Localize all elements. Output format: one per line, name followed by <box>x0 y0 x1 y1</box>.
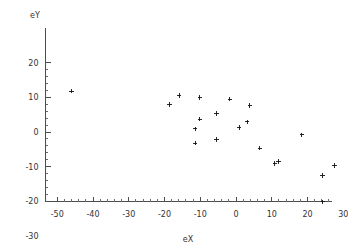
y-tick-label: -10 <box>25 163 38 172</box>
data-point-marker <box>332 163 336 167</box>
x-tick-label: 20 <box>302 210 312 219</box>
data-point-marker <box>69 89 73 93</box>
x-tick-label: -30 <box>122 210 135 219</box>
data-point-marker <box>248 103 252 107</box>
data-point-marker <box>300 133 304 137</box>
data-point-marker <box>273 161 277 165</box>
y-tick-label: -30 <box>25 232 38 241</box>
data-point-marker <box>245 120 249 124</box>
plot-canvas: -50-40-30-20-10010203020100-10-20-30 eY … <box>0 0 348 252</box>
data-point-marker <box>258 146 262 150</box>
x-tick-label: 30 <box>338 210 348 219</box>
axes-group <box>46 28 333 202</box>
chart-svg: -50-40-30-20-10010203020100-10-20-30 eY … <box>0 0 348 252</box>
scatter-plot-figure: -50-40-30-20-10010203020100-10-20-30 eY … <box>0 0 348 252</box>
x-tick-label: -40 <box>86 210 99 219</box>
data-point-marker <box>214 137 218 141</box>
x-axis-title: eX <box>183 235 194 244</box>
ticks-group <box>46 63 329 202</box>
data-point-marker <box>177 93 181 97</box>
data-point-marker <box>320 173 324 177</box>
x-tick-label: -20 <box>158 210 171 219</box>
x-tick-label: 10 <box>267 210 277 219</box>
data-point-marker <box>167 102 171 106</box>
tick-labels-group: -50-40-30-20-10010203020100-10-20-30 <box>25 59 348 241</box>
x-tick-label: 0 <box>233 210 238 219</box>
data-point-marker <box>193 141 197 145</box>
y-tick-label: 20 <box>28 59 38 68</box>
data-points-group <box>69 89 337 204</box>
data-point-marker <box>276 159 280 163</box>
y-axis-title: eY <box>30 11 40 20</box>
x-tick-label: -50 <box>51 210 64 219</box>
data-point-marker <box>198 95 202 99</box>
y-tick-label: -20 <box>25 197 38 206</box>
data-point-marker <box>198 117 202 121</box>
x-tick-label: -10 <box>194 210 207 219</box>
y-tick-label: 10 <box>28 93 38 102</box>
data-point-marker <box>237 125 241 129</box>
data-point-marker <box>214 111 218 115</box>
data-point-marker <box>228 97 232 101</box>
y-tick-label: 0 <box>33 128 38 137</box>
data-point-marker <box>193 127 197 131</box>
